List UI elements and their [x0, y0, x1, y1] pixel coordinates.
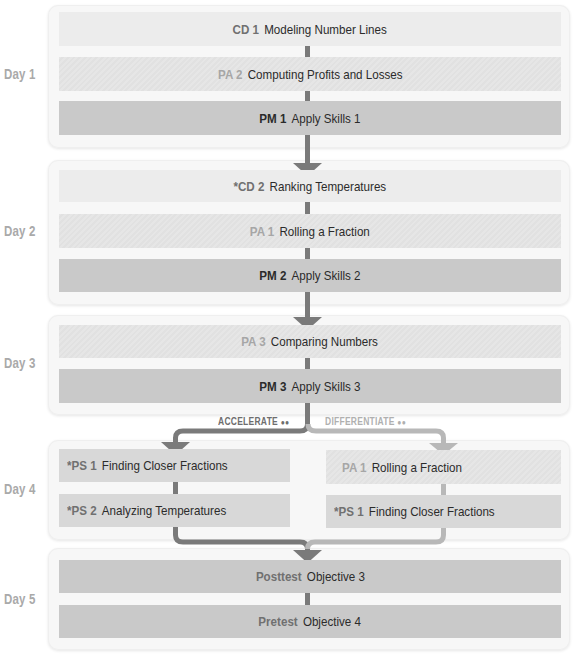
accelerate-label: ACCELERATE ●● [218, 416, 289, 427]
activity-ps1-differentiate[interactable]: *PS 1Finding Closer Fractions [326, 495, 561, 528]
activity-code: *PS 1 [67, 458, 97, 473]
day-label-2: Day 2 [4, 223, 37, 239]
activity-code: Posttest [255, 569, 301, 584]
activity-code: CD 1 [233, 22, 259, 37]
activity-cd2[interactable]: *CD 2Ranking Temperatures [59, 170, 561, 202]
activity-code: PA 2 [218, 67, 243, 82]
activity-code: PA 3 [242, 334, 267, 349]
activity-pm2[interactable]: PM 2Apply Skills 2 [59, 259, 561, 292]
activity-name: Modeling Number Lines [265, 22, 388, 37]
activity-name: Rolling a Fraction [372, 460, 462, 475]
connector-line [305, 90, 310, 101]
activity-pretest[interactable]: PretestObjective 4 [59, 605, 561, 638]
activity-name: Comparing Numbers [271, 334, 378, 349]
activity-name: Computing Profits and Losses [247, 67, 402, 82]
group-icon: ●● [281, 418, 290, 427]
activity-name: Analyzing Temperatures [102, 503, 226, 518]
activity-name: Apply Skills 3 [292, 379, 361, 394]
activity-cd1[interactable]: CD 1Modeling Number Lines [59, 12, 561, 46]
day-label-1: Day 1 [4, 66, 37, 82]
connector-line [305, 45, 310, 57]
day-label-4: Day 4 [4, 481, 37, 497]
activity-code: PM 1 [259, 111, 286, 126]
activity-ps1-accelerate[interactable]: *PS 1Finding Closer Fractions [59, 449, 290, 482]
activity-ps2-accelerate[interactable]: *PS 2Analyzing Temperatures [59, 494, 290, 527]
differentiate-label: DIFFERENTIATE ●● [325, 416, 406, 427]
group-icon: ●● [397, 418, 406, 427]
activity-pa2[interactable]: PA 2Computing Profits and Losses [59, 57, 561, 91]
activity-code: Pretest [259, 614, 298, 629]
day-label-5: Day 5 [4, 591, 37, 607]
activity-name: Objective 4 [303, 614, 361, 629]
activity-name: Apply Skills 1 [292, 111, 361, 126]
activity-pa3[interactable]: PA 3Comparing Numbers [59, 325, 561, 358]
activity-name: Ranking Temperatures [270, 179, 387, 194]
activity-code: *PS 1 [334, 504, 364, 519]
connector-line [305, 358, 310, 369]
activity-name: Apply Skills 2 [292, 268, 361, 283]
activity-pm1[interactable]: PM 1Apply Skills 1 [59, 101, 561, 135]
connector-line [441, 484, 446, 495]
activity-name: Objective 3 [306, 569, 364, 584]
connector-line [173, 482, 178, 494]
activity-code: PA 1 [342, 460, 367, 475]
connector-line [305, 593, 310, 605]
activity-name: Rolling a Fraction [280, 224, 370, 239]
activity-code: PM 2 [259, 268, 286, 283]
activity-pa1-differentiate[interactable]: PA 1Rolling a Fraction [326, 450, 561, 484]
connector-line [305, 202, 310, 214]
activity-name: Finding Closer Fractions [102, 458, 228, 473]
activity-code: PA 1 [250, 224, 275, 239]
activity-pm3[interactable]: PM 3Apply Skills 3 [59, 369, 561, 403]
connector-line [305, 248, 310, 259]
activity-code: *PS 2 [67, 503, 97, 518]
activity-pa1[interactable]: PA 1Rolling a Fraction [59, 214, 561, 248]
activity-code: *CD 2 [234, 179, 265, 194]
activity-code: PM 3 [259, 379, 286, 394]
activity-posttest[interactable]: PosttestObjective 3 [59, 560, 561, 593]
day-label-3: Day 3 [4, 355, 37, 371]
activity-name: Finding Closer Fractions [369, 504, 495, 519]
